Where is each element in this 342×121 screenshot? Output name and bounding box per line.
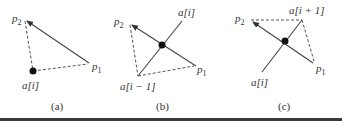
label-ai: a[i] bbox=[251, 76, 268, 88]
label-p2: p2 bbox=[113, 15, 124, 30]
label-p2: p2 bbox=[234, 12, 245, 27]
panel-a: p2 p1 a[i] (a) bbox=[11, 12, 102, 113]
dashed-ai-p1 bbox=[33, 64, 88, 71]
panel-c: p2 p1 a[i + 1] a[i] (c) bbox=[234, 4, 326, 113]
label-ai-plus-1: a[i + 1] bbox=[289, 4, 325, 16]
dashed-ai-1-p1 bbox=[138, 66, 194, 76]
dashed-ai1-p1 bbox=[302, 20, 314, 61]
caption-a: (a) bbox=[51, 100, 64, 113]
bottom-rule bbox=[0, 118, 342, 121]
figure-canvas: p2 p1 a[i] (a) p2 p1 a[i] a[i − 1] (b) p… bbox=[0, 0, 342, 121]
label-p2: p2 bbox=[11, 12, 22, 27]
label-p1: p1 bbox=[315, 62, 326, 77]
dashed-p2-ai-1 bbox=[130, 25, 138, 76]
label-p1: p1 bbox=[196, 63, 207, 78]
caption-c: (c) bbox=[278, 100, 291, 113]
label-ai: a[i] bbox=[178, 6, 195, 18]
dashed-p2-ai bbox=[25, 21, 33, 71]
intersection-dot bbox=[282, 38, 289, 45]
panel-b: p2 p1 a[i] a[i − 1] (b) bbox=[113, 6, 207, 113]
vector-p1-p2 bbox=[27, 21, 89, 63]
label-ai: a[i] bbox=[22, 79, 39, 91]
point-dot bbox=[30, 68, 37, 75]
caption-b: (b) bbox=[156, 100, 169, 113]
label-ai-minus-1: a[i − 1] bbox=[120, 80, 156, 92]
label-p1: p1 bbox=[91, 60, 102, 75]
segment-ai-ai1 bbox=[262, 20, 302, 72]
segment-ai-1-ai bbox=[138, 21, 182, 76]
intersection-dot bbox=[159, 42, 166, 49]
